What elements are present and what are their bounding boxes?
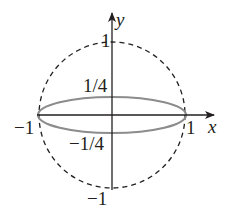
tick-label-ellipse-top: 1/4	[83, 75, 108, 96]
y-axis-label: y	[114, 9, 125, 30]
tick-label-x-right: 1	[186, 117, 196, 138]
tick-label-x-left: −1	[14, 117, 34, 138]
tick-label-ellipse-bottom: −1/4	[69, 133, 104, 154]
tick-label-y-top: 1	[101, 30, 111, 51]
x-axis-label: x	[207, 116, 217, 137]
diagram-canvas: y x 1 −1 −1 1 1/4 −1/4	[0, 0, 240, 208]
tick-label-y-bottom: −1	[87, 188, 107, 208]
